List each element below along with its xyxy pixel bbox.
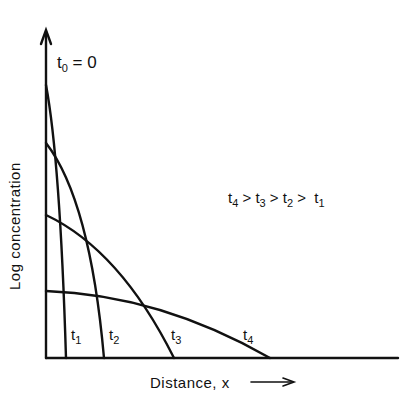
curve-t1	[46, 85, 66, 358]
t0-value: = 0	[73, 53, 97, 72]
t0-annotation: t0 = 0	[57, 54, 97, 74]
t1-sub: 1	[75, 334, 81, 346]
t2-sub: 2	[113, 334, 119, 346]
t0-sub: 0	[62, 62, 68, 74]
y-axis-label: Log concentration	[6, 162, 23, 290]
x-axis-label: Distance, x	[150, 375, 230, 390]
label-t4: t4	[243, 327, 253, 346]
label-t2: t2	[109, 327, 119, 346]
t3-sub: 3	[175, 334, 181, 346]
label-t1: t1	[71, 327, 81, 346]
t4-sub: 4	[247, 334, 253, 346]
label-t3: t3	[171, 327, 181, 346]
curve-t4	[46, 291, 270, 358]
ordering-annotation: t4 > t3 > t2 > t1	[228, 190, 325, 209]
